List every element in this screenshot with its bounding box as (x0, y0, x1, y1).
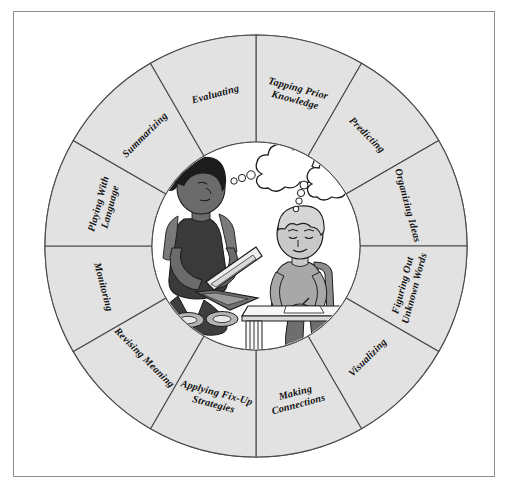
figure-canvas: Tapping PriorKnowledgePredictingOrganizi… (0, 0, 513, 490)
strategies-wheel: Tapping PriorKnowledgePredictingOrganizi… (0, 0, 513, 490)
